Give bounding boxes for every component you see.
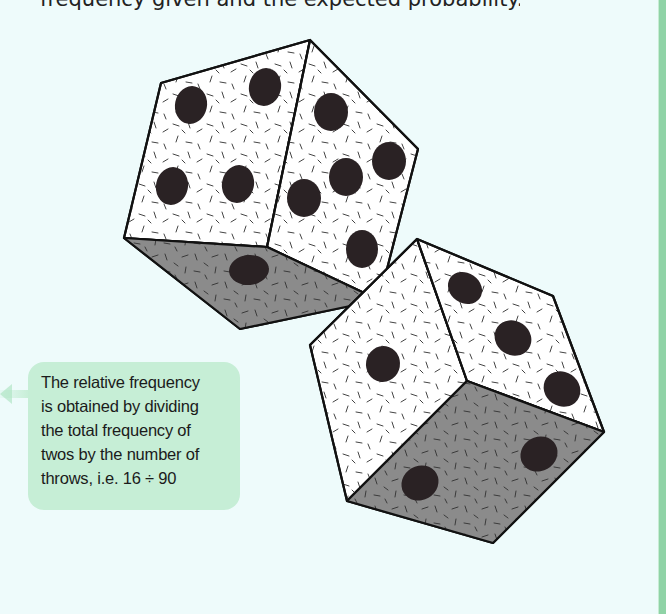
callout-line: the total frequency of [41, 418, 240, 442]
callout-line: The relative frequency [41, 370, 240, 394]
dice-illustration [0, 0, 666, 614]
callout-line: twos by the number of [41, 442, 240, 466]
callout-line: is obtained by dividing [41, 394, 240, 418]
callout-arrow-icon [0, 384, 12, 404]
callout-line: throws, i.e. 16 ÷ 90 [41, 466, 240, 490]
relative-frequency-callout: The relative frequency is obtained by di… [28, 362, 240, 510]
